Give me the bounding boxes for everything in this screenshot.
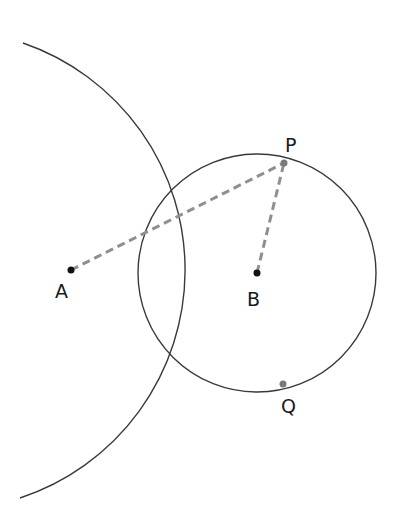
label-q: Q [281, 395, 296, 417]
label-a: A [55, 280, 68, 302]
large-circle-arc [20, 43, 185, 498]
point-p-dot [281, 160, 288, 167]
segment-AP [71, 163, 284, 270]
point-a-dot [68, 267, 75, 274]
point-b-dot [254, 270, 261, 277]
label-p: P [285, 134, 296, 156]
segment-BP [257, 163, 284, 273]
point-q-dot [280, 381, 287, 388]
label-b: B [247, 288, 260, 310]
geometry-diagram: A B P Q [0, 0, 404, 521]
